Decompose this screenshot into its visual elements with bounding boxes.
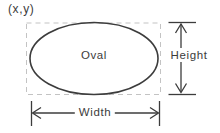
height-dimension-label: Height <box>169 48 210 62</box>
origin-label: (x,y) <box>8 2 34 16</box>
oval-shape-label: Oval <box>81 49 107 61</box>
width-dimension-label: Width <box>75 106 115 118</box>
oval-diagram: (x,y) Oval Height Width <box>0 0 220 133</box>
